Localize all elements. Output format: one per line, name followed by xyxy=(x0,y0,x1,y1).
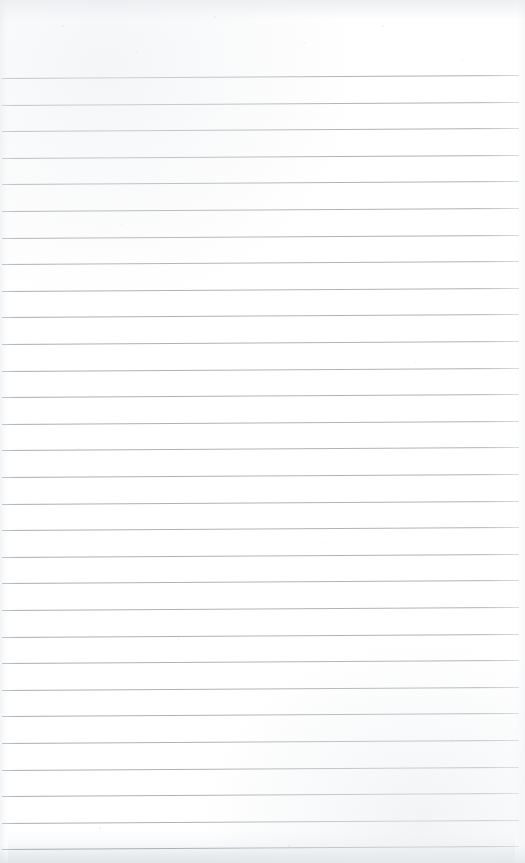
ruled-line xyxy=(2,846,519,850)
ruled-line xyxy=(2,75,519,79)
ruled-line xyxy=(2,527,519,531)
ruled-line xyxy=(2,554,519,558)
ruled-line xyxy=(2,580,519,584)
ruled-line xyxy=(2,128,519,132)
ruled-line xyxy=(2,820,519,824)
ruled-lines-layer xyxy=(0,0,525,863)
ruled-line xyxy=(2,660,519,664)
ruled-line xyxy=(2,421,519,425)
ruled-line xyxy=(2,181,519,185)
ruled-line xyxy=(2,687,519,691)
ruled-line xyxy=(2,155,519,159)
ruled-line xyxy=(2,634,519,638)
ruled-line xyxy=(2,102,519,106)
ruled-line xyxy=(2,288,519,292)
ruled-line xyxy=(2,713,519,717)
ruled-line xyxy=(2,235,519,239)
ruled-line xyxy=(2,607,519,611)
ruled-line xyxy=(2,793,519,797)
ruled-line xyxy=(2,474,519,478)
scanned-page xyxy=(0,0,525,863)
ruled-line xyxy=(2,314,519,318)
ruled-line xyxy=(2,767,519,771)
ruled-line xyxy=(2,501,519,505)
ruled-line xyxy=(2,447,519,451)
ruled-line xyxy=(2,261,519,265)
ruled-line xyxy=(2,368,519,372)
ruled-line xyxy=(2,341,519,345)
ruled-line xyxy=(2,740,519,744)
ruled-line xyxy=(2,394,519,398)
ruled-line xyxy=(2,208,519,212)
